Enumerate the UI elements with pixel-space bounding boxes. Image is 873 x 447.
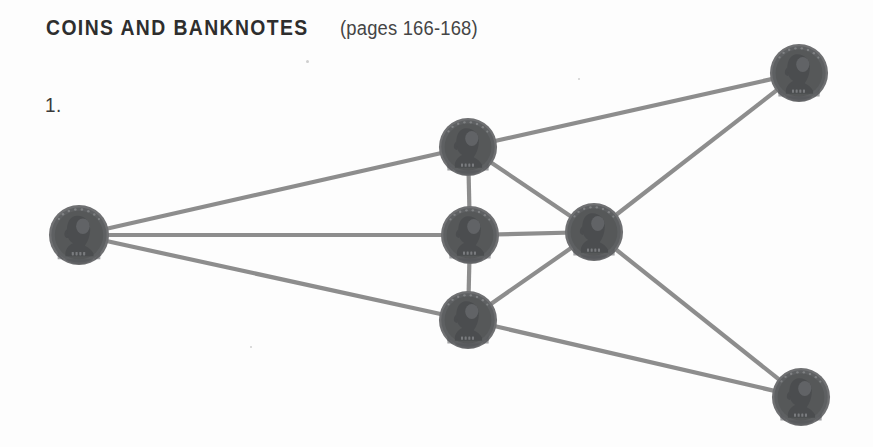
coin-icon[interactable]: [49, 205, 109, 265]
coin-icon[interactable]: [441, 206, 499, 264]
diagram-edge: [79, 147, 468, 235]
coin-icon[interactable]: [770, 44, 828, 102]
coin-network-diagram: [0, 0, 873, 447]
diagram-edge: [79, 235, 468, 320]
diagram-edges: [79, 73, 801, 397]
coin-icon[interactable]: [772, 368, 830, 426]
coin-icon[interactable]: [565, 203, 623, 261]
coin-icon[interactable]: [439, 291, 497, 349]
coin-icon[interactable]: [439, 118, 497, 176]
worksheet-page: COINS AND BANKNOTES(pages 166-168) 1.: [0, 0, 873, 447]
